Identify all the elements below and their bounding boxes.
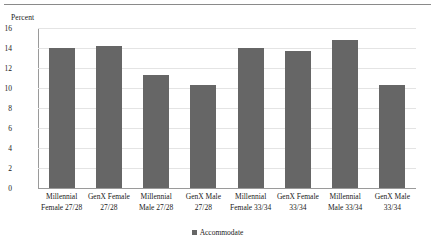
y-axis-title: Percent bbox=[11, 13, 34, 22]
x-tick-label-line: 27/28 bbox=[85, 203, 132, 214]
x-tick-label-line: 33/34 bbox=[369, 203, 416, 214]
y-tick-label: 2 bbox=[0, 164, 12, 173]
x-tick-label-line: Millennial bbox=[38, 192, 85, 203]
legend-label-accommodate: Accommodate bbox=[200, 228, 244, 237]
chart-legend: Accommodate bbox=[0, 228, 435, 237]
y-tick-label: 0 bbox=[0, 184, 12, 193]
x-tick-label: GenX Male27/28 bbox=[180, 192, 227, 213]
x-tick-label: MillennialMale 33/34 bbox=[322, 192, 369, 213]
plot-area bbox=[38, 28, 416, 188]
bar bbox=[379, 85, 405, 188]
x-tick-label-line: Male 33/34 bbox=[322, 203, 369, 214]
x-tick-label: GenX Female33/34 bbox=[274, 192, 321, 213]
x-tick-label-line: Millennial bbox=[227, 192, 274, 203]
y-tick-label: 16 bbox=[0, 24, 12, 33]
x-tick-label-line: Millennial bbox=[133, 192, 180, 203]
bar bbox=[96, 46, 122, 188]
bar bbox=[143, 75, 169, 188]
bar bbox=[49, 48, 75, 188]
x-tick-label-line: GenX Male bbox=[180, 192, 227, 203]
y-tick-label: 4 bbox=[0, 144, 12, 153]
bar-chart-figure: Percent 0246810121416 MillennialFemale 2… bbox=[0, 0, 435, 251]
y-tick-label: 8 bbox=[0, 104, 12, 113]
x-tick-label: MillennialFemale 33/34 bbox=[227, 192, 274, 213]
x-tick-label: MillennialMale 27/28 bbox=[133, 192, 180, 213]
x-tick-label: MillennialFemale 27/28 bbox=[38, 192, 85, 213]
x-tick-label-line: GenX Female bbox=[274, 192, 321, 203]
x-tick-label-line: Male 27/28 bbox=[133, 203, 180, 214]
y-tick-label: 14 bbox=[0, 44, 12, 53]
x-axis-category-labels: MillennialFemale 27/28GenX Female27/28Mi… bbox=[38, 192, 416, 226]
bar bbox=[285, 51, 311, 188]
top-divider-rule bbox=[4, 4, 431, 5]
x-tick-label-line: Female 33/34 bbox=[227, 203, 274, 214]
bar bbox=[332, 40, 358, 188]
x-tick-label-line: Millennial bbox=[322, 192, 369, 203]
x-tick-label-line: Female 27/28 bbox=[38, 203, 85, 214]
x-tick-label: GenX Female27/28 bbox=[85, 192, 132, 213]
legend-swatch-accommodate bbox=[192, 230, 197, 235]
bar bbox=[190, 85, 216, 188]
gridline bbox=[38, 188, 416, 189]
x-tick-label: GenX Male33/34 bbox=[369, 192, 416, 213]
x-tick-label-line: GenX Female bbox=[85, 192, 132, 203]
y-tick-label: 6 bbox=[0, 124, 12, 133]
bar bbox=[238, 48, 264, 188]
x-tick-label-line: 33/34 bbox=[274, 203, 321, 214]
y-tick-label: 12 bbox=[0, 64, 12, 73]
bars-layer bbox=[38, 28, 416, 188]
y-tick-label: 10 bbox=[0, 84, 12, 93]
x-tick-label-line: 27/28 bbox=[180, 203, 227, 214]
x-tick-label-line: GenX Male bbox=[369, 192, 416, 203]
